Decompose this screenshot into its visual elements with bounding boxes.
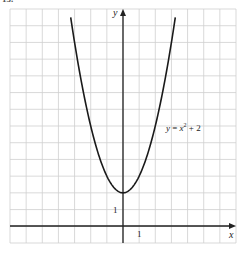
x-tick-label: 1 [137, 229, 142, 239]
chart: y x 1 1 y = x2 + 2 [0, 0, 237, 256]
equation-label: y = x2 + 2 [165, 122, 201, 133]
y-axis-label: y [112, 7, 118, 18]
y-tick-label: 1 [113, 205, 118, 215]
y-axis-arrow-icon [120, 9, 126, 16]
x-axis-label: x [228, 229, 234, 240]
